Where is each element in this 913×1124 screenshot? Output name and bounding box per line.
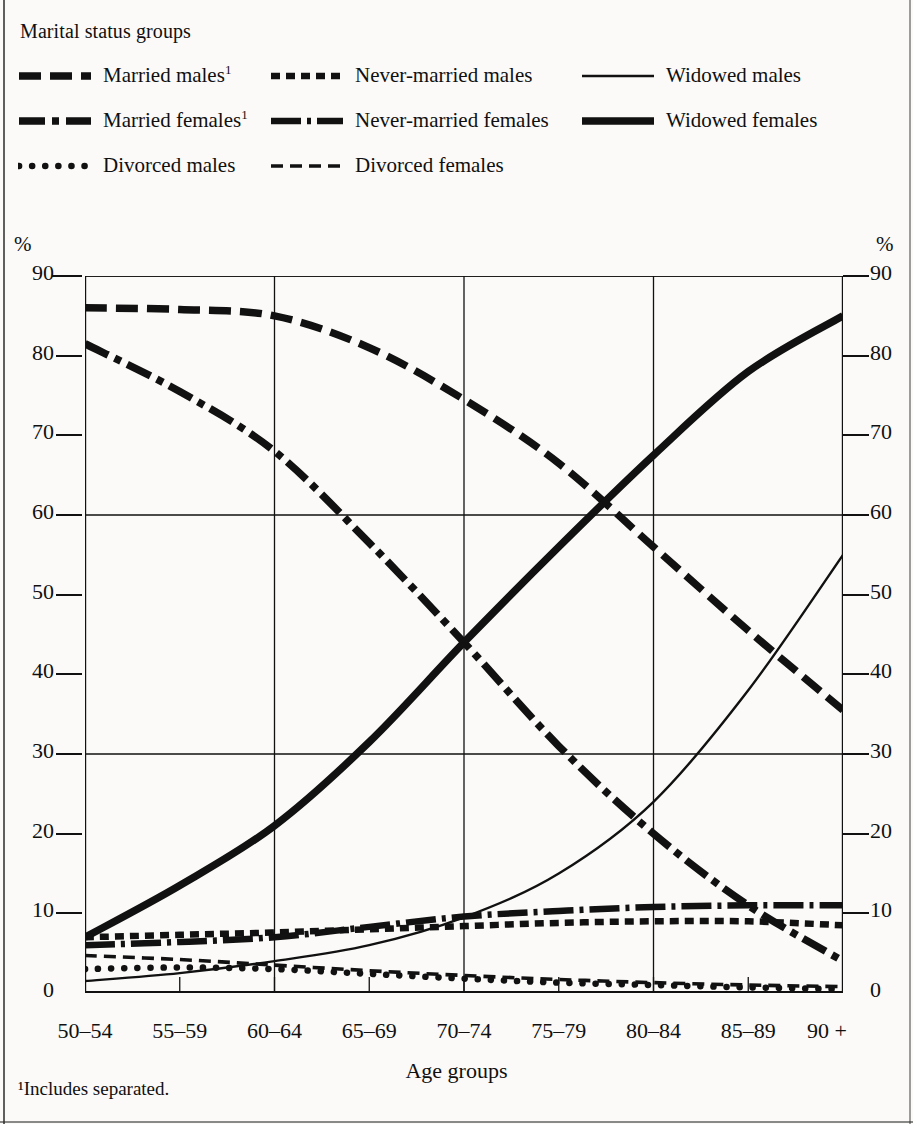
legend-swatch-married-females-icon: [18, 112, 92, 130]
y-tick-label-right: 30: [870, 738, 913, 764]
y-tick-mark-left: [56, 355, 82, 357]
y-tick-label-left: 30: [8, 738, 54, 764]
y-tick-label-left: 40: [8, 658, 54, 684]
y-tick-label-left: 60: [8, 499, 54, 525]
y-tick-mark-right: [843, 514, 869, 516]
y-tick-mark-left: [56, 753, 82, 755]
legend-item-never-married-females[interactable]: Never-married females: [270, 108, 549, 133]
y-tick-mark-right: [843, 275, 869, 277]
legend-footnote-marker: 1: [225, 62, 232, 77]
x-tick-label: 55–59: [152, 1018, 207, 1044]
legend-item-widowed-females[interactable]: Widowed females: [581, 108, 817, 133]
y-tick-mark-right: [843, 434, 869, 436]
y-tick-label-right: 40: [870, 658, 913, 684]
legend-label-divorced-males: Divorced males: [103, 153, 235, 178]
legend-swatch-never-married-males-icon: [270, 67, 344, 85]
x-tick-label: 90 +: [807, 1018, 847, 1044]
x-tick-label: 60–64: [247, 1018, 302, 1044]
y-tick-label-right: 90: [870, 260, 913, 286]
y-tick-mark-left: [56, 833, 82, 835]
x-tick-label: 80–84: [626, 1018, 681, 1044]
y-tick-mark-right: [843, 753, 869, 755]
y-tick-label-right: 10: [870, 897, 913, 923]
x-tick-label: 85–89: [721, 1018, 776, 1044]
legend-label-never-married-females: Never-married females: [355, 108, 549, 133]
y-tick-label-right: 0: [870, 977, 913, 1003]
legend-item-married-males[interactable]: Married males1: [18, 63, 231, 88]
legend-swatch-widowed-males-icon: [581, 67, 655, 85]
plot-region: [85, 276, 843, 993]
legend-label-widowed-males: Widowed males: [666, 63, 801, 88]
legend-swatch-divorced-males-icon: [18, 157, 92, 175]
y-tick-mark-left: [56, 594, 82, 596]
y-tick-label-right: 80: [870, 340, 913, 366]
legend-label-married-females: Married females1: [103, 108, 248, 133]
legend-footnote-marker: 1: [241, 107, 248, 122]
x-tick-label: 50–54: [58, 1018, 113, 1044]
legend-label-never-married-males: Never-married males: [355, 63, 532, 88]
chart-area: % % 001010202030304040505060607070808090…: [0, 232, 913, 1032]
x-tick-label: 65–69: [342, 1018, 397, 1044]
y-tick-mark-left: [56, 434, 82, 436]
legend-row: Married females1Never-married femalesWid…: [18, 108, 898, 132]
legend-swatch-widowed-females-icon: [581, 112, 655, 130]
legend-swatch-never-married-females-icon: [270, 112, 344, 130]
legend-item-divorced-females[interactable]: Divorced females: [270, 153, 504, 178]
legend-swatch-divorced-females-icon: [270, 157, 344, 175]
y-tick-mark-right: [843, 673, 869, 675]
y-tick-mark-left: [56, 912, 82, 914]
legend-item-divorced-males[interactable]: Divorced males: [18, 153, 235, 178]
y-tick-mark-left: [52, 275, 82, 277]
legend-rows: Married males1Never-married malesWidowed…: [18, 63, 898, 177]
y-tick-label-right: 60: [870, 499, 913, 525]
legend-item-married-females[interactable]: Married females1: [18, 108, 248, 133]
y-tick-mark-left: [56, 514, 82, 516]
y-tick-label-right: 20: [870, 818, 913, 844]
y-axis-unit-left: %: [14, 232, 32, 257]
y-tick-mark-right: [843, 594, 869, 596]
footnote: ¹Includes separated.: [18, 1078, 169, 1100]
chart-page: Marital status groups Married males1Neve…: [0, 0, 913, 1124]
legend-label-divorced-females: Divorced females: [355, 153, 504, 178]
y-tick-label-left: 80: [8, 340, 54, 366]
y-tick-label-left: 50: [8, 579, 54, 605]
y-tick-label-right: 70: [870, 419, 913, 445]
series-canvas: [85, 276, 843, 993]
y-axis-unit-right: %: [876, 232, 894, 257]
y-tick-mark-right: [843, 912, 869, 914]
legend-label-widowed-females: Widowed females: [666, 108, 817, 133]
y-tick-mark-left: [56, 673, 82, 675]
legend-row: Married males1Never-married malesWidowed…: [18, 63, 898, 87]
legend-row: Divorced malesDivorced females: [18, 153, 898, 177]
chart-legend: Marital status groups Married males1Neve…: [18, 20, 898, 198]
page-rule-bottom: [0, 1121, 913, 1123]
x-tick-label: 70–74: [437, 1018, 492, 1044]
y-tick-label-left: 90: [8, 260, 54, 286]
legend-swatch-married-males-icon: [18, 67, 92, 85]
legend-item-widowed-males[interactable]: Widowed males: [581, 63, 801, 88]
y-tick-label-left: 10: [8, 897, 54, 923]
y-tick-label-right: 50: [870, 579, 913, 605]
y-tick-label-left: 70: [8, 419, 54, 445]
y-tick-mark-right: [843, 355, 869, 357]
x-axis-labels: 50–5455–5960–6465–6970–7475–7980–8485–89…: [0, 1018, 913, 1048]
y-tick-mark-right: [843, 833, 869, 835]
legend-label-married-males: Married males1: [103, 63, 231, 88]
y-tick-label-left: 20: [8, 818, 54, 844]
legend-title: Marital status groups: [20, 20, 898, 43]
x-tick-label: 75–79: [531, 1018, 586, 1044]
y-tick-label-left: 0: [8, 977, 54, 1003]
legend-item-never-married-males[interactable]: Never-married males: [270, 63, 532, 88]
